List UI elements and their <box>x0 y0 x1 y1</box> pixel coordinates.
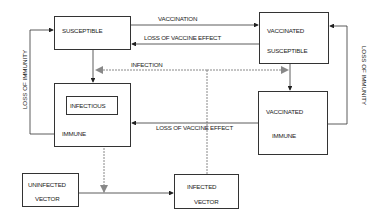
uninfected-vector-line1: UNINFECTED <box>28 181 66 188</box>
vaccinated-immune-line1: VACCINATED <box>266 108 303 115</box>
vaccinated-susceptible-box: VACCINATED SUSCEPTIBLE <box>259 12 329 64</box>
loss-immunity-right-label: LOSS OF IMMUNITY <box>361 46 368 105</box>
vaccinated-immune-line2: IMMUNE <box>272 132 296 139</box>
vaccinated-susceptible-line2: SUSCEPTIBLE <box>267 47 307 54</box>
vaccinated-susceptible-line1: VACCINATED <box>267 27 304 34</box>
infection-edge-label: INFECTION <box>131 61 163 68</box>
infected-vector-box: INFECTED VECTOR <box>174 174 239 209</box>
uninfected-vector-box: UNINFECTED VECTOR <box>22 173 79 207</box>
infectious-box: INFECTIOUS <box>66 96 118 115</box>
loss-vaccine-effect-bottom-label: LOSS OF VACCINE EFFECT <box>156 124 233 131</box>
vaccination-edge-label: VACCINATION <box>158 15 197 22</box>
immune-box: IMMUNE <box>54 83 131 147</box>
loss-vaccine-effect-top-label: LOSS OF VACCINE EFFECT <box>144 34 221 41</box>
uninfected-vector-line2: VECTOR <box>35 195 59 202</box>
infected-vector-line1: INFECTED <box>187 183 216 190</box>
loss-immunity-left-label: LOSS OF IMMUNITY <box>21 50 28 109</box>
immune-label: IMMUNE <box>62 130 86 137</box>
infectious-label: INFECTIOUS <box>70 102 105 109</box>
vaccinated-immune-box: VACCINATED IMMUNE <box>258 91 328 155</box>
susceptible-label: SUSCEPTIBLE <box>62 27 102 34</box>
susceptible-box: SUSCEPTIBLE <box>54 16 131 50</box>
infected-vector-line2: VECTOR <box>194 198 218 205</box>
